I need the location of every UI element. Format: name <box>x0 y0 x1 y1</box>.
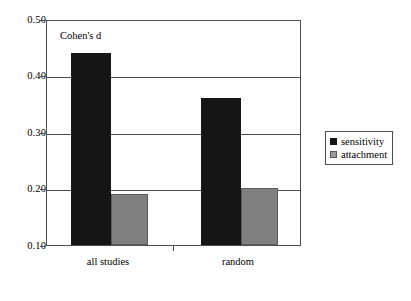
cohens-d-annotation: Cohen's d <box>60 30 101 42</box>
y-tick-mark <box>40 246 45 247</box>
gray-square-swatch-icon <box>330 151 337 158</box>
y-axis: 0.50 0.40 0.30 0.20 0.10 <box>0 0 46 301</box>
legend-item-sensitivity: sensitivity <box>330 135 387 148</box>
y-tick-mark <box>40 20 45 21</box>
plot-area: Cohen's d <box>46 20 301 246</box>
bar-sensitivity-random <box>201 98 241 245</box>
bar-chart-figure: 0.50 0.40 0.30 0.20 0.10 Cohen's d all s… <box>0 0 411 301</box>
bar-attachment-all-studies <box>111 194 148 245</box>
y-tick-mark <box>40 189 45 190</box>
x-tick-mark <box>173 246 174 251</box>
x-category-label-random: random <box>178 256 298 268</box>
legend-item-attachment: attachment <box>330 148 387 161</box>
y-tick-mark <box>40 133 45 134</box>
y-tick-mark <box>40 76 45 77</box>
bar-sensitivity-all-studies <box>71 53 111 245</box>
x-category-label-all-studies: all studies <box>48 256 168 268</box>
legend: sensitivity attachment <box>325 131 393 165</box>
legend-label: attachment <box>341 149 387 160</box>
legend-label: sensitivity <box>341 136 384 147</box>
black-square-swatch-icon <box>330 138 337 145</box>
bar-attachment-random <box>241 188 278 245</box>
